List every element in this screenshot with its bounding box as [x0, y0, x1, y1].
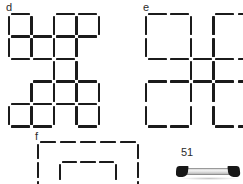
photo-bar-end-left — [176, 166, 189, 177]
rect-edge-left — [37, 144, 39, 159]
rect-edge-right — [137, 162, 139, 177]
rect-edge-left — [59, 164, 61, 181]
rect-edge-top — [80, 141, 97, 143]
photo-shadow — [180, 177, 238, 180]
figure-panel-f — [0, 0, 243, 184]
rect-edge-right — [137, 181, 139, 184]
rect-edge-left — [37, 181, 39, 184]
photo-bar-body — [184, 168, 232, 175]
rect-edge-top — [60, 141, 77, 143]
rect-edge-top — [80, 161, 95, 163]
rect-edge-top — [40, 141, 57, 143]
photo-bar-end-right — [227, 166, 240, 177]
rect-edge-right — [115, 164, 117, 181]
rect-edge-top — [99, 161, 114, 163]
metal-bar-photograph — [176, 163, 242, 184]
rect-edge-top — [120, 141, 137, 143]
rect-edge-left — [37, 162, 39, 177]
rect-edge-top — [100, 141, 117, 143]
rect-edge-right — [137, 144, 139, 159]
figure-page: d e f 51 — [0, 0, 243, 184]
rect-edge-top — [62, 161, 77, 163]
page-number: 51 — [181, 147, 193, 158]
